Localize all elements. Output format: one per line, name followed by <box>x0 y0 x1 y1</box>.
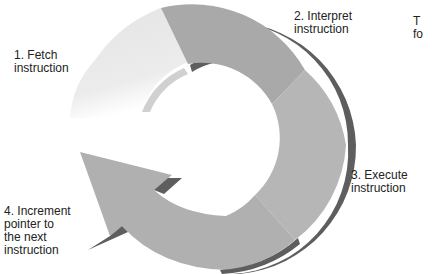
step-2-label: 2. Interpret instruction <box>294 10 352 36</box>
step-4-label: 4. Increment pointer to the next instruc… <box>4 205 71 257</box>
segment-increment-arrow <box>80 152 295 270</box>
cropped-side-text: T fo <box>413 15 423 41</box>
step-1-label: 1. Fetch instruction <box>14 49 69 75</box>
step-3-label: 3. Execute instruction <box>351 169 408 195</box>
